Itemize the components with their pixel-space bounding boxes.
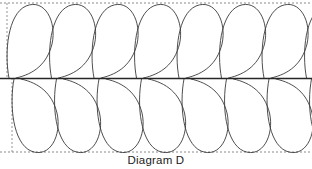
plume-upper-1 [7,4,53,78]
plume-upper-3 [92,4,138,78]
plume-upper-2 [50,4,96,78]
plume-upper-5 [177,4,223,78]
plume-upper-7 [262,4,308,78]
lower-plume-row [12,79,312,153]
plume-upper-6 [220,4,266,78]
plume-lower-2 [55,79,101,153]
plume-upper-4 [135,4,181,78]
upper-plume-row [7,4,312,78]
plume-lower-6 [225,79,271,153]
figure-caption: Diagram D [0,152,312,169]
plume-lower-7 [267,79,312,153]
plume-upper-8 [305,4,312,78]
diagram-page: Diagram D [0,0,312,169]
plume-lower-8 [310,79,312,153]
plume-lower-3 [97,79,143,153]
plume-lower-4 [140,79,186,153]
plume-lower-1 [12,79,58,153]
feather-pattern-figure [0,0,312,155]
plume-lower-5 [182,79,228,153]
